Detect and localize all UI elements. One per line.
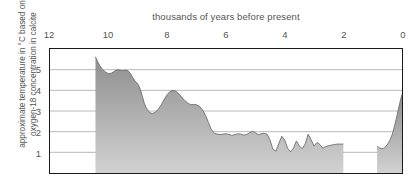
y-tick-5: 5 <box>0 64 41 75</box>
y-tick-3: 3 <box>0 106 41 117</box>
y-tick-2: 2 <box>0 127 41 138</box>
x-tick-12: 12 <box>44 29 55 40</box>
temperature-series <box>95 57 402 173</box>
x-tick-8: 8 <box>164 29 169 40</box>
x-tick-10: 10 <box>103 29 114 40</box>
y-tick-1: 1 <box>0 148 41 159</box>
chart-figure: thousands of years before present approx… <box>0 0 411 187</box>
x-tick-0: 0 <box>400 29 405 40</box>
x-tick-4: 4 <box>282 29 287 40</box>
area-fill-segment-1 <box>95 57 343 173</box>
y-tick-4: 4 <box>0 85 41 96</box>
plot-area <box>49 48 403 174</box>
area-fill-segment-2 <box>377 94 402 173</box>
x-tick-6: 6 <box>223 29 228 40</box>
area-chart-svg <box>50 49 402 173</box>
y-axis-tick-labels: 12345 <box>0 0 45 187</box>
chart-title: thousands of years before present <box>49 11 403 22</box>
x-tick-2: 2 <box>341 29 346 40</box>
